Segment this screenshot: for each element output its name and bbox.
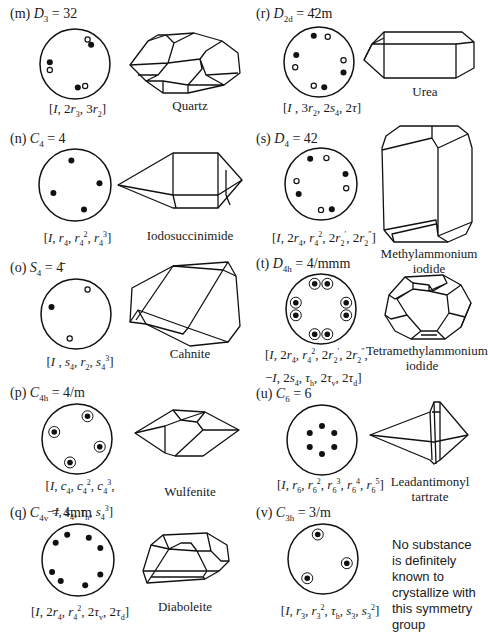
pole-upper: [64, 532, 70, 538]
pole-upper: [304, 575, 310, 581]
pole-upper: [68, 158, 74, 164]
substance-name: Quartz: [160, 98, 220, 113]
pole-upper: [325, 281, 331, 287]
substance-name: Methylammonium iodide: [380, 246, 478, 276]
no-substance-note: No substance is definitely known to crys…: [392, 537, 477, 633]
pole-upper: [344, 560, 350, 566]
panel-heading: (n) C4 = 4: [10, 131, 66, 149]
wulfenite-crystal: [133, 408, 241, 460]
substance-name: Tetramethylammonium iodide: [366, 343, 478, 373]
quartz-crystal: [128, 23, 243, 95]
pole-lower: [83, 83, 88, 88]
pole-upper: [343, 313, 349, 319]
pole-upper: [342, 171, 348, 177]
substance-name: Cahnite: [165, 346, 215, 361]
generator-formula: [I, 2r4, r42, 2r2′, 2r2″]: [272, 226, 372, 252]
generator-formula: [I, 2r4, r42, 2τv, 2τd]: [30, 600, 130, 626]
pole-upper: [331, 444, 337, 450]
pole-lower: [344, 186, 349, 191]
pole-upper: [311, 33, 317, 39]
pole-upper: [343, 300, 349, 306]
pole-upper: [321, 84, 327, 90]
stereogram: [41, 403, 113, 475]
panel-heading: (v) C3h = 3/m: [256, 505, 331, 523]
pole-upper: [86, 535, 92, 541]
stereogram: [41, 523, 115, 597]
pole-upper: [47, 59, 53, 65]
pole-upper: [312, 281, 318, 287]
pole-upper: [307, 444, 313, 450]
pole-upper: [319, 451, 325, 457]
pole-lower: [325, 34, 330, 39]
substance-name: Diaboleite: [155, 599, 215, 614]
panel-heading: (u) C6 = 6: [256, 386, 312, 404]
pole-upper: [293, 300, 299, 306]
pole-lower: [324, 155, 329, 160]
leadantimonyl-tartrate-crystal: [370, 398, 470, 468]
pole-upper: [312, 331, 318, 337]
stereogram: [287, 523, 359, 595]
stereogram: [39, 28, 111, 100]
panel-heading: (m) D3 = 32: [10, 6, 77, 24]
panel-heading: (r) D2d = 4̄2m: [256, 6, 332, 24]
pole-upper: [97, 571, 103, 577]
pole-upper: [88, 42, 94, 48]
stereogram: [40, 278, 112, 350]
pole-upper: [49, 304, 55, 310]
pole-upper: [293, 52, 299, 58]
substance-name: Iodosuccinimide: [145, 228, 235, 243]
pole-upper: [81, 206, 87, 212]
iodosuccinimide-crystal: [118, 150, 243, 215]
pole-upper: [53, 540, 59, 546]
generator-formula: [I, 2r4, r42, 2r2′, 2r2″,−I, 2s4, τh, 2τ…: [265, 343, 380, 392]
pole-upper: [96, 180, 102, 186]
stereogram: [285, 273, 357, 345]
pole-lower: [341, 58, 346, 63]
pole-upper: [341, 70, 347, 76]
pole-upper: [50, 190, 56, 196]
pole-lower: [294, 179, 299, 184]
pole-lower: [293, 65, 298, 70]
pole-upper: [97, 444, 103, 450]
primitive-circle: [286, 274, 356, 344]
generator-formula: [I , 3r2, 2s4, 2τ]: [283, 99, 358, 122]
pole-lower: [47, 67, 52, 72]
stereogram: [284, 147, 358, 221]
generator-formula: [I, 2r3, 3r2]: [40, 100, 115, 123]
generator-formula: [I, r4, r42, r43]: [40, 226, 115, 252]
pole-upper: [49, 569, 55, 575]
panel-heading: (o) S4 = 4̄: [10, 260, 63, 278]
substance-name: Urea: [405, 84, 445, 99]
pole-upper: [329, 206, 335, 212]
primitive-circle: [42, 404, 112, 474]
stereogram: [286, 404, 358, 476]
pole-lower: [311, 83, 316, 88]
pole-upper: [51, 429, 57, 435]
pole-upper: [82, 582, 88, 588]
pole-upper: [307, 430, 313, 436]
generator-formula: [I , s4, r2, s43]: [45, 350, 115, 376]
pole-lower: [67, 336, 72, 341]
diaboleite-crystal: [141, 531, 231, 586]
primitive-circle: [41, 279, 111, 349]
pole-upper: [97, 545, 103, 551]
pole-upper: [58, 578, 64, 584]
pole-lower: [85, 37, 90, 42]
pole-upper: [331, 430, 337, 436]
stereogram: [38, 148, 112, 222]
substance-name: Wulfenite: [160, 484, 220, 499]
pole-upper: [325, 331, 331, 337]
tetramethylammonium-iodide-crystal: [383, 273, 473, 341]
pole-lower: [85, 287, 90, 292]
substance-name: Leadantimonyl tartrate: [380, 474, 480, 504]
panel-heading: (t) D4h = 4/mmm: [256, 256, 350, 274]
pole-upper: [315, 532, 321, 538]
pole-lower: [318, 207, 323, 212]
generator-formula: [I, r3, r32, τh, s3, s32]: [275, 599, 385, 625]
generator-formula: [I, r6, r62, r63, r64, r65]: [277, 473, 377, 499]
panel-heading: (q) C4v = 4mm: [10, 505, 92, 523]
urea-crystal: [362, 30, 477, 80]
pole-upper: [85, 413, 91, 419]
pole-upper: [75, 84, 81, 90]
primitive-circle: [287, 405, 357, 475]
